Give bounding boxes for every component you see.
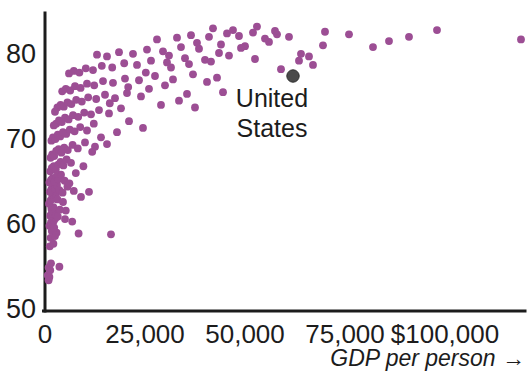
data-point: [120, 59, 128, 67]
annotation-united-states: States: [0, 114, 531, 143]
data-point: [217, 41, 225, 49]
data-point: [189, 70, 197, 78]
data-point: [54, 213, 62, 221]
data-point: [225, 52, 233, 60]
data-point: [177, 43, 185, 51]
data-point: [213, 74, 221, 82]
data-point: [46, 273, 54, 281]
data-point: [193, 39, 201, 47]
data-point: [167, 64, 175, 72]
data-point: [89, 66, 97, 74]
data-point: [133, 61, 141, 69]
y-tick-label: 80: [6, 39, 36, 70]
data-point: [235, 32, 243, 40]
data-point: [66, 179, 74, 187]
data-point: [253, 23, 261, 31]
data-point: [121, 75, 129, 83]
data-point: [165, 52, 173, 60]
data-point: [143, 46, 151, 54]
data-point: [115, 48, 123, 56]
highlighted-data-point: [287, 70, 299, 82]
data-point: [173, 34, 181, 42]
annotation-united-states: United: [0, 84, 531, 113]
data-point: [72, 169, 80, 177]
data-point: [229, 26, 237, 34]
data-point: [56, 206, 64, 214]
data-point: [61, 215, 69, 223]
data-point: [70, 187, 78, 195]
data-point: [433, 26, 441, 34]
data-point: [169, 76, 177, 84]
data-point: [215, 49, 223, 57]
data-point: [319, 41, 327, 49]
data-point: [309, 61, 317, 69]
data-point: [151, 72, 159, 80]
data-point: [88, 148, 96, 156]
scatter-chart: 50607080025,00050,00075,000$100,000Unite…: [0, 0, 531, 375]
data-point: [142, 69, 150, 77]
data-point: [47, 259, 55, 267]
data-point: [107, 230, 115, 238]
data-point: [209, 24, 217, 32]
data-point: [59, 198, 67, 206]
data-point: [80, 162, 88, 170]
data-point: [277, 65, 285, 73]
data-point: [74, 144, 82, 152]
data-point: [517, 35, 525, 43]
data-point: [205, 33, 213, 41]
data-point: [261, 35, 269, 43]
data-point: [237, 44, 245, 52]
data-point: [297, 50, 305, 58]
data-point: [108, 64, 116, 72]
data-point: [285, 33, 293, 41]
data-point: [385, 37, 393, 45]
y-tick-label: 60: [6, 209, 36, 240]
data-point: [345, 30, 353, 38]
x-axis-title: GDP per person →: [330, 345, 525, 372]
data-point: [129, 50, 137, 58]
data-point: [187, 31, 195, 39]
data-point: [251, 55, 259, 63]
data-point: [207, 58, 215, 66]
data-point: [185, 60, 193, 68]
data-point: [68, 218, 76, 226]
data-point: [153, 35, 161, 43]
data-point: [93, 51, 101, 59]
data-point: [103, 53, 111, 61]
data-point: [305, 53, 313, 61]
data-point: [295, 57, 303, 65]
data-point: [67, 159, 75, 167]
data-point: [77, 193, 85, 201]
data-point: [85, 188, 93, 196]
data-point: [76, 69, 84, 77]
data-point: [271, 27, 279, 35]
data-point: [75, 230, 83, 238]
data-point: [50, 224, 58, 232]
data-point: [321, 28, 329, 36]
data-point: [369, 43, 377, 51]
data-point: [405, 33, 413, 41]
data-point: [82, 64, 90, 72]
data-point: [147, 57, 155, 65]
data-point: [56, 263, 64, 271]
data-point: [98, 62, 106, 70]
